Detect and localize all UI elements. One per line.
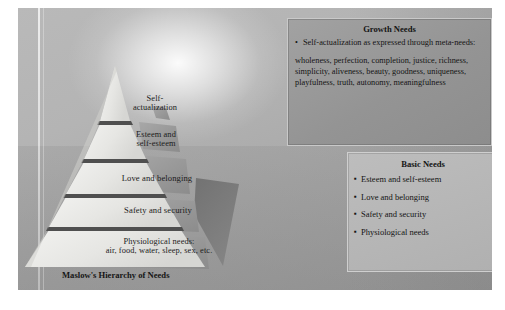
figure-container: Self- actualization Esteem and self-este… <box>0 0 505 310</box>
growth-needs-title: Growth Needs <box>288 24 491 34</box>
bullet-icon: ▪ <box>354 192 361 202</box>
basic-needs-title: Basic Needs <box>348 159 492 169</box>
bullet-icon: ▪ <box>354 227 361 237</box>
basic-needs-box: Basic Needs ▪ Esteem and self-esteem ▪ L… <box>347 152 492 272</box>
tier-label-self-actualization: Self- actualization <box>118 94 192 113</box>
maslow-pyramid: Self- actualization Esteem and self-este… <box>18 8 318 290</box>
tier-label-love-and-belonging: Love and belonging <box>82 174 232 184</box>
divider-love-safety <box>63 194 167 198</box>
growth-needs-point-row: • Self-actualization as expressed throug… <box>288 38 491 48</box>
bullet-icon: ▪ <box>354 174 361 184</box>
bullet-icon: • <box>295 38 303 48</box>
divider-self-esteem <box>97 121 133 125</box>
basic-needs-item-label: Safety and security <box>361 209 492 219</box>
growth-needs-meta-needs-list: wholeness, perfection, completion, justi… <box>288 56 491 88</box>
scanned-plate: Self- actualization Esteem and self-este… <box>18 8 492 290</box>
basic-needs-item: ▪ Safety and security <box>348 209 492 219</box>
basic-needs-item: ▪ Physiological needs <box>348 227 492 237</box>
figure-caption: Maslow's Hierarchy of Needs <box>62 270 292 280</box>
growth-needs-box: Growth Needs • Self-actualization as exp… <box>287 18 492 146</box>
divider-esteem-love <box>81 159 149 163</box>
bullet-icon: ▪ <box>354 209 361 219</box>
basic-needs-item: ▪ Love and belonging <box>348 192 492 202</box>
growth-needs-point: Self-actualization as expressed through … <box>303 38 484 48</box>
tier-label-esteem: Esteem and self-esteem <box>104 130 208 149</box>
tier-label-physiological-needs: Physiological needs: air, food, water, s… <box>46 237 272 256</box>
basic-needs-item-label: Esteem and self-esteem <box>361 174 492 184</box>
basic-needs-item: ▪ Esteem and self-esteem <box>348 174 492 184</box>
tier-label-safety-and-security: Safety and security <box>70 206 246 216</box>
divider-safety-physiological <box>46 227 184 231</box>
basic-needs-item-label: Love and belonging <box>361 192 492 202</box>
basic-needs-item-label: Physiological needs <box>361 227 492 237</box>
